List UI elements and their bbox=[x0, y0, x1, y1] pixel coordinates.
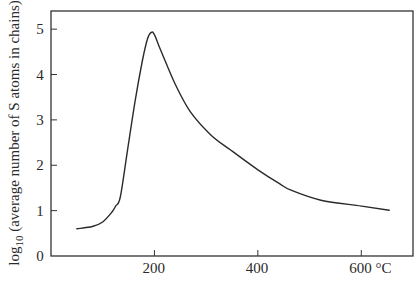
x-tick-label: 600 °C bbox=[349, 260, 391, 276]
x-tick-labels: 200400600 °C bbox=[142, 260, 391, 276]
data-line bbox=[77, 32, 389, 229]
y-tick-label: 5 bbox=[36, 21, 44, 37]
y-tick-label: 1 bbox=[36, 203, 44, 219]
y-tick-labels: 012345 bbox=[36, 21, 44, 264]
y-axis-label: log10 (average number of S atoms in chai… bbox=[6, 0, 25, 266]
y-tick-label: 0 bbox=[36, 248, 44, 264]
x-tick-label: 400 bbox=[246, 260, 269, 276]
x-tick-label: 200 bbox=[142, 260, 165, 276]
chart: 012345 200400600 °C log10 (average numbe… bbox=[0, 0, 418, 281]
y-tick-label: 2 bbox=[36, 157, 44, 173]
axis-ticks bbox=[51, 29, 361, 256]
y-tick-label: 3 bbox=[36, 112, 44, 128]
y-tick-label: 4 bbox=[36, 67, 44, 83]
